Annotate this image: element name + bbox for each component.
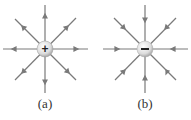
minus-symbol	[141, 48, 149, 50]
arrow-right-in-icon	[115, 47, 119, 51]
label-a: (a)	[25, 96, 65, 112]
plus-symbol: +	[41, 42, 48, 56]
arrow-right-icon	[74, 47, 78, 51]
arrow-left-icon	[12, 47, 16, 51]
arrow-left-in-icon	[171, 47, 175, 51]
arrow-up-icon	[43, 14, 47, 18]
arrow-ul-in-icon	[166, 70, 169, 74]
label-b: (b)	[125, 96, 165, 112]
arrow-up-in-icon	[143, 76, 147, 80]
arrow-down-in-icon	[143, 18, 147, 22]
arrow-down-icon	[43, 80, 47, 84]
